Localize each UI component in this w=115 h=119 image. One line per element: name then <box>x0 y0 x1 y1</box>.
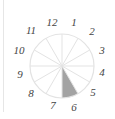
hour-label-6: 6 <box>71 101 77 113</box>
hour-label-4: 4 <box>99 66 105 78</box>
hour-label-5: 5 <box>90 86 96 98</box>
hour-label-2: 2 <box>89 25 95 37</box>
hour-label-3: 3 <box>98 44 105 56</box>
hour-label-9: 9 <box>17 68 23 80</box>
hour-label-11: 11 <box>26 24 36 36</box>
hour-label-7: 7 <box>50 99 56 111</box>
hour-label-12: 12 <box>47 16 59 28</box>
hour-label-8: 8 <box>28 87 34 99</box>
hour-label-10: 10 <box>14 44 26 56</box>
hour-label-1: 1 <box>71 16 77 28</box>
clock-diagram: 12 1 2 3 4 5 6 7 8 9 10 11 <box>0 0 115 119</box>
